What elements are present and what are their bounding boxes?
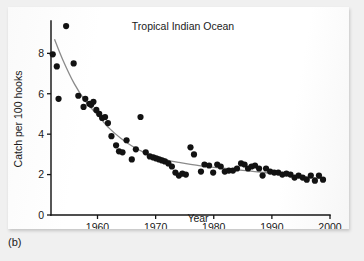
- data-point: [80, 104, 86, 110]
- x-tick-label: 2000: [318, 221, 342, 229]
- x-tick-label: 1970: [144, 221, 168, 229]
- x-axis-label: Year: [187, 212, 209, 224]
- x-tick-label: 1960: [86, 221, 110, 229]
- data-point: [55, 96, 61, 102]
- data-point: [187, 144, 193, 150]
- data-point: [105, 120, 111, 126]
- data-point: [312, 178, 318, 184]
- y-axis-ticks: 02468: [38, 47, 51, 221]
- data-point: [123, 137, 129, 143]
- data-point: [75, 93, 81, 99]
- data-point: [259, 172, 265, 178]
- figure-caption: (b): [8, 236, 21, 248]
- data-point: [169, 163, 175, 169]
- data-point: [137, 114, 143, 120]
- y-tick-label: 6: [38, 88, 44, 100]
- axes-group: [51, 21, 330, 215]
- catch-rate-scatter-chart: Tropical Indian Ocean 196019701980199020…: [8, 7, 349, 229]
- data-point: [108, 133, 114, 139]
- chart-title: Tropical Indian Ocean: [132, 20, 234, 32]
- figure-container: Tropical Indian Ocean 196019701980199020…: [8, 7, 349, 229]
- data-point: [234, 165, 240, 171]
- y-tick-label: 4: [38, 128, 44, 140]
- data-point: [191, 151, 197, 157]
- data-point: [63, 23, 69, 29]
- data-point: [183, 171, 189, 177]
- data-point: [82, 96, 88, 102]
- data-point: [54, 63, 60, 69]
- data-point: [90, 99, 96, 105]
- data-point: [119, 149, 125, 155]
- chart-title-group: Tropical Indian Ocean: [132, 20, 234, 32]
- y-tick-label: 8: [38, 47, 44, 59]
- y-axis-label: Catch per 100 hooks: [12, 71, 24, 168]
- y-tick-label: 2: [38, 168, 44, 180]
- data-point: [71, 60, 77, 66]
- data-point: [320, 177, 326, 183]
- data-points-group: [50, 23, 326, 184]
- data-point: [210, 169, 216, 175]
- data-point: [133, 146, 139, 152]
- data-point: [256, 165, 262, 171]
- y-tick-label: 0: [38, 209, 44, 221]
- data-point: [102, 114, 108, 120]
- data-point: [218, 163, 224, 169]
- data-point: [206, 162, 212, 168]
- data-point: [308, 172, 314, 178]
- data-point: [50, 51, 56, 57]
- data-point: [198, 168, 204, 174]
- x-tick-label: 1990: [260, 221, 284, 229]
- x-axis-ticks: 19601970198019902000: [86, 215, 342, 229]
- data-point: [129, 156, 135, 162]
- data-point: [113, 142, 119, 148]
